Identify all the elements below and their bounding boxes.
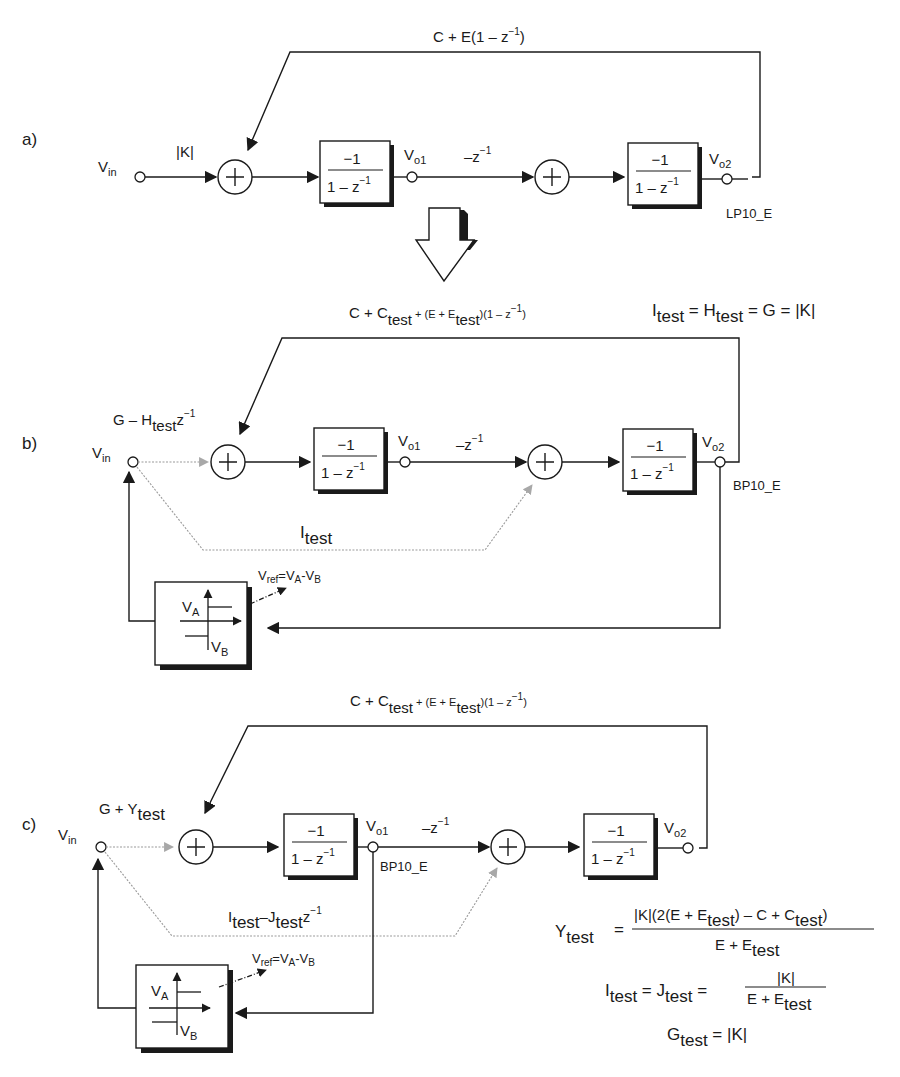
transform-arrow-icon (416, 208, 478, 281)
svg-text:E + Etest: E + Etest (747, 990, 812, 1014)
output-name: BP10_E (380, 859, 428, 874)
vo1-node (400, 457, 410, 467)
vin-label: Vin (58, 826, 77, 846)
test-path-label: Itest (300, 523, 332, 548)
svg-text:−1: −1 (343, 150, 360, 167)
delay-label: –z−1 (456, 433, 484, 453)
svg-text:=: = (614, 920, 624, 939)
vo1-node (368, 842, 378, 852)
comparator-output-wire (129, 472, 155, 621)
equation-gtest: Gtest = |K| (667, 1025, 747, 1050)
feedback-expression: C + Ctest + (E + Etest)(1 – z−1) (350, 691, 527, 716)
vin-node (128, 457, 138, 467)
panel-c: c) C + Ctest + (E + Etest)(1 – z−1) Vin … (22, 691, 874, 1053)
comparator-output-wire (98, 859, 136, 1008)
panel-b: b) C + Ctest + (E + Etest)(1 – z−1) Ites… (22, 301, 815, 670)
vo2-node (715, 457, 725, 467)
vo1-node (407, 172, 417, 182)
vref-label: Vref=VA-VB (252, 951, 315, 968)
input-gain-label: G + Ytest (99, 800, 165, 824)
vo1-label: Vo1 (366, 817, 388, 837)
delay-label: –z−1 (464, 145, 492, 165)
vref-label: Vref=VA-VB (258, 568, 321, 585)
svg-text:−1: −1 (646, 437, 663, 454)
vin-node (135, 172, 145, 182)
vo2-label: Vo2 (702, 433, 724, 453)
svg-text:Ytest: Ytest (555, 922, 594, 947)
gain-label: |K| (176, 143, 194, 160)
delay-label: –z−1 (422, 816, 450, 836)
vo1-label: Vo1 (398, 432, 420, 452)
feedback-expression: C + E(1 – z−1) (433, 26, 525, 45)
feedback-expression: C + Ctest + (E + Etest)(1 – z−1) (349, 303, 526, 328)
output-name: LP10_E (726, 206, 773, 221)
vin-node (96, 842, 106, 852)
vo2-label: Vo2 (664, 819, 686, 839)
vref-adjust-arrow (250, 588, 286, 604)
panel-a: a) C + E(1 – z−1) Vin |K| −1 1 – z−1 Vo1… (22, 26, 773, 221)
svg-text:−1: −1 (651, 151, 668, 168)
comparator-block (155, 582, 247, 665)
svg-text:Gtest = |K|: Gtest = |K| (667, 1025, 747, 1050)
input-gain-label: G – Htestz−1 (113, 408, 196, 434)
svg-text:Itest = Jtest =: Itest = Jtest = (605, 981, 707, 1006)
svg-text:E + Etest: E + Etest (715, 936, 780, 960)
svg-text:−1: −1 (307, 822, 324, 839)
vo2-label: Vo2 (709, 150, 731, 170)
output-name: BP10_E (733, 478, 781, 493)
panel-b-label: b) (22, 434, 37, 453)
svg-text:−1: −1 (607, 822, 624, 839)
equation-itest-jtest: Itest = Jtest = |K| E + Etest (605, 969, 826, 1014)
test-path-label: Itest–Jtestz−1 (228, 905, 322, 932)
vo2-node (683, 843, 693, 853)
vo2-node (722, 174, 732, 184)
panel-a-label: a) (22, 130, 37, 149)
panel-c-label: c) (22, 815, 36, 834)
vin-label: Vin (98, 158, 117, 178)
diagram-canvas: a) C + E(1 – z−1) Vin |K| −1 1 – z−1 Vo1… (0, 0, 900, 1077)
svg-text:−1: −1 (337, 436, 354, 453)
equation-ytest: Ytest = |K|(2(E + Etest) – C + Ctest) E … (555, 906, 874, 960)
svg-text:|K|(2(E + Etest) – C + Ctest): |K|(2(E + Etest) – C + Ctest) (634, 906, 828, 930)
parameter-relation: Itest = Htest = G = |K| (652, 301, 815, 326)
svg-text:|K|: |K| (777, 969, 795, 986)
vo1-label: Vo1 (404, 146, 426, 166)
vin-label: Vin (92, 444, 111, 464)
